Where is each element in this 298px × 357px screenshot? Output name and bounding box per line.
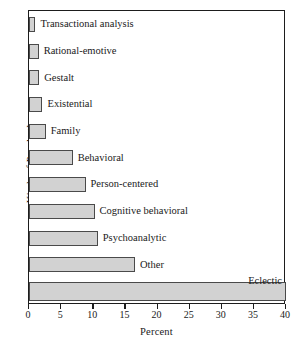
- bar-row: Gestalt: [29, 64, 286, 91]
- x-axis-tick-label: 10: [87, 309, 97, 320]
- bar: [29, 231, 98, 246]
- bar-row: Person-centered: [29, 171, 286, 198]
- bar-value-label: Behavioral: [78, 153, 124, 164]
- x-axis-tick-label: 30: [216, 309, 226, 320]
- bar: [29, 97, 42, 112]
- bar-row: Cognitive behavioral: [29, 198, 286, 225]
- bar: [29, 150, 73, 165]
- bar-row: Eclectic: [29, 278, 286, 305]
- bar: [29, 177, 86, 192]
- bar-row: Transactional analysis: [29, 11, 286, 38]
- bar-value-label: Cognitive behavioral: [100, 206, 188, 217]
- x-axis-title: Percent: [28, 326, 285, 337]
- bar: [29, 257, 135, 272]
- x-axis-tick-labels: 0510152025303540: [28, 309, 285, 323]
- bar-value-label: Family: [51, 126, 81, 137]
- bar-value-label: Other: [140, 260, 164, 271]
- bar-chart-figure: Kinds of Psychotherapy Transactional ana…: [0, 0, 298, 357]
- bar-row: Existential: [29, 91, 286, 118]
- bar-value-label: Gestalt: [44, 73, 74, 84]
- bars-layer: Transactional analysisRational-emotiveGe…: [29, 11, 284, 303]
- bar-value-label: Eclectic: [248, 276, 282, 287]
- bar-row: Rational-emotive: [29, 38, 286, 65]
- x-axis-tick-label: 0: [26, 309, 31, 320]
- bar: [29, 70, 39, 85]
- x-axis-tick-label: 35: [248, 309, 258, 320]
- bar-row: Family: [29, 118, 286, 145]
- bar-value-label: Transactional analysis: [40, 19, 133, 30]
- x-axis-tick-label: 15: [119, 309, 129, 320]
- bar: [29, 204, 95, 219]
- x-axis-tick-label: 5: [58, 309, 63, 320]
- bar-value-label: Existential: [47, 99, 92, 110]
- bar: [29, 124, 46, 139]
- bar-row: Other: [29, 252, 286, 279]
- bar: [29, 44, 39, 59]
- bar-row: Behavioral: [29, 145, 286, 172]
- x-axis-tick-label: 40: [280, 309, 290, 320]
- bar-value-label: Psychoanalytic: [103, 233, 167, 244]
- plot-area: Transactional analysisRational-emotiveGe…: [28, 10, 285, 304]
- bar-row: Psychoanalytic: [29, 225, 286, 252]
- bar: [29, 17, 35, 32]
- bar-value-label: Person-centered: [91, 179, 159, 190]
- x-axis-tick-label: 25: [184, 309, 194, 320]
- x-axis-tick-label: 20: [152, 309, 162, 320]
- bar-value-label: Rational-emotive: [44, 46, 117, 57]
